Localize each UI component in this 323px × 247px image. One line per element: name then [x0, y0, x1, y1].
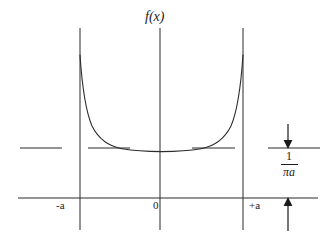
- plot-canvas: [0, 0, 323, 247]
- x-tick-label-minus-a: -a: [56, 200, 65, 211]
- x-tick-label-plus-a: +a: [249, 200, 260, 211]
- figure-container: f(x) -a 0 +a 1 πa: [0, 0, 323, 247]
- x-tick-label-zero: 0: [153, 200, 159, 211]
- fraction-numerator: 1: [279, 150, 299, 163]
- function-curve: [80, 55, 243, 152]
- measure-value-fraction: 1 πa: [279, 150, 299, 178]
- page-title: f(x): [145, 10, 164, 24]
- fraction-denominator: πa: [279, 166, 299, 179]
